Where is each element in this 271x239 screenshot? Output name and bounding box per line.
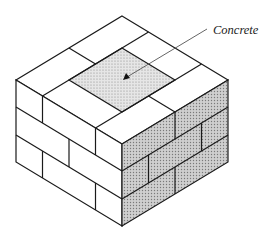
concrete-label: Concrete (213, 23, 258, 38)
